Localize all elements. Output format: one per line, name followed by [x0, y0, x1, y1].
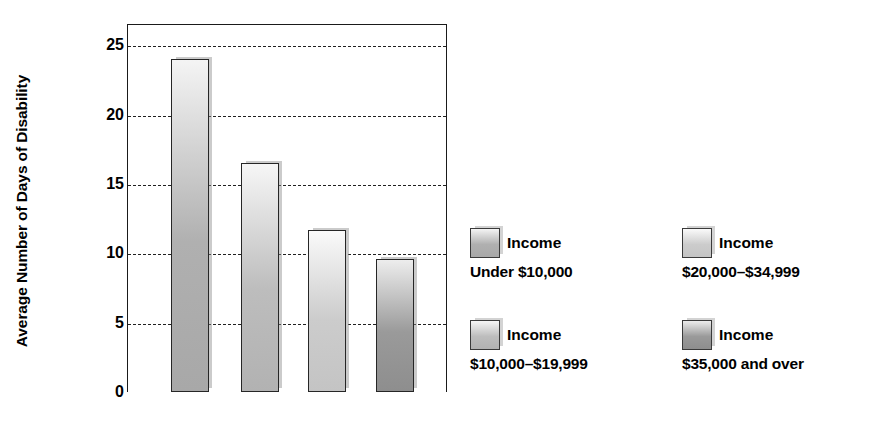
y-axis-tick-label: 15	[106, 175, 124, 193]
y-axis-tick-label: 25	[106, 36, 124, 54]
legend-label-line1: Income	[719, 235, 773, 251]
legend-label-line1: Income	[719, 327, 773, 343]
legend-label-line1: Income	[507, 327, 561, 343]
legend-swatch-icon	[470, 320, 500, 350]
legend-swatch-icon	[682, 228, 712, 258]
legend-item: IncomeUnder $10,000	[470, 228, 660, 281]
y-axis-tick-label: 5	[115, 314, 124, 332]
legend-label-line2: $35,000 and over	[682, 355, 872, 373]
legend-label-line2: Under $10,000	[470, 263, 660, 281]
bar-series	[128, 25, 446, 392]
y-axis-title: Average Number of Days of Disability	[4, 0, 40, 421]
plot-area	[127, 24, 447, 392]
legend-swatch-icon	[470, 228, 500, 258]
bar-chart: Average Number of Days of Disability 252…	[0, 0, 882, 421]
legend-item: Income$35,000 and over	[682, 320, 872, 373]
legend-label-line1: Income	[507, 235, 561, 251]
y-axis-tick-labels: 2520151050	[88, 0, 124, 421]
y-axis-tick-label: 10	[106, 244, 124, 262]
y-axis-title-text: Average Number of Days of Disability	[13, 74, 31, 346]
legend-label-line2: $10,000–$19,999	[470, 355, 660, 373]
legend-label-line2: $20,000–$34,999	[682, 263, 872, 281]
y-axis-tick-label: 20	[106, 106, 124, 124]
legend-item: Income$10,000–$19,999	[470, 320, 660, 373]
y-axis-tick-label: 0	[115, 383, 124, 401]
chart-legend: IncomeUnder $10,000Income$20,000–$34,999…	[470, 228, 870, 398]
legend-item: Income$20,000–$34,999	[682, 228, 872, 281]
bar	[241, 163, 279, 392]
bar	[171, 59, 209, 392]
bar	[376, 259, 414, 392]
bar	[308, 230, 346, 392]
legend-swatch-icon	[682, 320, 712, 350]
